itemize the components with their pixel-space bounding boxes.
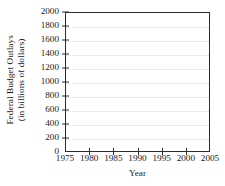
gridline	[66, 139, 209, 140]
y-axis-tick-label: 1800	[41, 21, 59, 30]
x-axis-tick-label: 1975	[56, 154, 74, 163]
y-axis-tick-mark	[62, 68, 69, 69]
x-axis-title: Year	[65, 169, 210, 178]
y-axis-tick-mark	[62, 110, 69, 111]
y-axis-title-text: Federal Budget Outlays (in billions of d…	[5, 35, 27, 124]
y-axis-tick-label: 1200	[41, 63, 59, 72]
chart-figure: Federal Budget Outlays (in billions of d…	[0, 0, 225, 186]
gridline	[66, 69, 209, 70]
y-axis-tick-label: 2000	[41, 7, 59, 16]
y-axis-tick-label: 600	[45, 105, 59, 114]
x-axis-tick-labels: 1975198019851990199520002005	[45, 154, 225, 167]
gridline	[66, 41, 209, 42]
y-axis-tick-mark	[62, 54, 69, 55]
y-axis-tick-mark	[62, 82, 69, 83]
x-axis-tick-label: 1995	[152, 154, 170, 163]
y-axis-tick-mark	[62, 124, 69, 125]
x-axis-tick-label: 2005	[201, 154, 219, 163]
y-axis-tick-label: 200	[45, 133, 59, 142]
x-axis-tick-label: 1985	[104, 154, 122, 163]
y-axis-tick-label: 400	[45, 119, 59, 128]
y-axis-tick-label: 1600	[41, 35, 59, 44]
y-axis-tick-label: 800	[45, 91, 59, 100]
gridline	[66, 27, 209, 28]
gridline	[66, 55, 209, 56]
y-axis-tick-mark	[62, 40, 69, 41]
y-axis-ticks	[65, 12, 66, 152]
x-axis-tick-label: 1980	[80, 154, 98, 163]
y-axis-title-line-2: (in billions of dollars)	[16, 35, 27, 124]
y-axis-tick-labels: 0200400600800100012001400160018002000	[28, 12, 62, 152]
gridline	[66, 125, 209, 126]
x-axis-tick-label: 2000	[177, 154, 195, 163]
y-axis-tick-mark	[62, 96, 69, 97]
gridline	[66, 97, 209, 98]
gridlines	[66, 13, 209, 151]
gridline	[66, 83, 209, 84]
y-axis-tick-label: 1400	[41, 49, 59, 58]
y-axis-tick-mark	[62, 138, 69, 139]
gridline	[66, 111, 209, 112]
y-axis-tick-label: 1000	[41, 77, 59, 86]
y-axis-tick-mark	[62, 12, 69, 13]
x-axis-tick-label: 1990	[128, 154, 146, 163]
y-axis-title-line-1: Federal Budget Outlays	[5, 35, 16, 124]
plot-area	[65, 12, 210, 152]
y-axis-tick-mark	[62, 26, 69, 27]
